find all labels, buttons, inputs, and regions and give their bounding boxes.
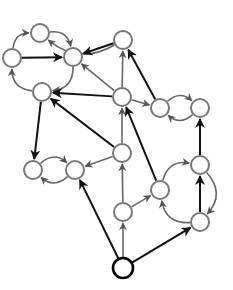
edge-F-to-D [53,93,112,97]
edge-B-to-A [13,33,29,48]
edge-F-to-G [132,100,150,105]
edge-K-to-J [41,177,67,183]
edge-I-to-K [85,156,112,166]
edge-D-to-B [12,69,32,91]
node-M [191,156,209,174]
node-D [33,83,51,101]
node-F [113,88,131,106]
edge-C-to-D [53,67,73,91]
root-node [113,258,133,278]
node-E [114,31,132,49]
node-A [31,24,49,42]
edge-F-to-E [122,51,123,87]
edge-L-to-F [126,107,156,181]
node-K [66,161,84,179]
edge-N-to-L [162,201,190,223]
graph-canvas [0,0,233,290]
edge-P-to-K [80,180,119,259]
node-J [24,161,42,179]
node-B [3,49,21,67]
edge-F-to-C [82,64,115,91]
node-N [191,213,209,231]
edge-L-to-M [163,163,189,181]
node-H [191,99,209,117]
edge-J-to-K [40,157,66,163]
edge-O-to-L [132,196,151,207]
node-O [114,203,132,221]
edge-O-to-I [122,164,123,202]
node-layer [3,24,209,278]
directed-graph [0,0,233,290]
node-L [151,181,169,199]
edge-I-to-D [51,99,114,147]
edge-P-to-N [132,228,191,263]
node-G [151,99,169,117]
edge-M-to-N [207,172,217,213]
edge-H-to-G [168,115,192,121]
edge-G-to-H [167,95,191,101]
node-I [113,144,131,162]
node-C [64,48,82,66]
edge-G-to-E [128,50,155,100]
edge-D-to-J [34,102,41,159]
edge-B-to-C [22,57,62,58]
